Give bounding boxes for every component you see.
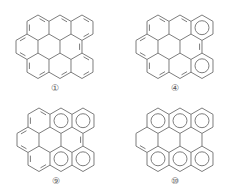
molecule-panel-4: ④ xyxy=(120,0,228,98)
aromatic-sextet-circle xyxy=(195,59,209,73)
aromatic-sextet-circle xyxy=(151,152,165,166)
compound-number-label: ④ xyxy=(165,83,185,93)
compound-number-label: ⑩ xyxy=(165,176,185,186)
aromatic-sextet-circle xyxy=(54,152,68,166)
aromatic-sextet-circle xyxy=(195,114,209,128)
aromatic-sextet-circle xyxy=(76,114,90,128)
aromatic-sextet-circle xyxy=(195,152,209,166)
aromatic-sextet-circle xyxy=(76,152,90,166)
aromatic-sextet-circle xyxy=(54,114,68,128)
aromatic-sextet-circle xyxy=(195,21,209,35)
compound-number-label: ⑨ xyxy=(46,176,66,186)
aromatic-sextet-circle xyxy=(173,152,187,166)
aromatic-sextet-circle xyxy=(151,114,165,128)
molecule-panel-10: ⑩ xyxy=(120,93,228,191)
aromatic-sextet-circle xyxy=(173,114,187,128)
molecule-panel-9: ⑨ xyxy=(1,93,115,191)
compound-number-label: ① xyxy=(45,83,65,93)
molecule-panel-1: ① xyxy=(0,0,114,98)
